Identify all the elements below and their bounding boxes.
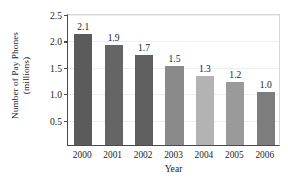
bar-chart-figure: Number of Pay Phones (millions) 2.52.01.… [0,0,288,182]
bar-group: 1.9 [98,15,128,145]
x-axis-title: Year [67,163,280,174]
bar-value-label: 1.3 [199,63,211,74]
x-axis-tick-label: 2004 [195,150,214,160]
bar-group: 1.5 [159,15,189,145]
x-axis-tick-label: 2001 [103,150,122,160]
bar-value-label: 1.5 [168,53,180,64]
bar-value-label: 2.1 [77,21,89,32]
x-axis-tick-label: 2006 [255,150,274,160]
x-axis-tick-label: 2002 [134,150,153,160]
bar-value-label: 1.9 [108,32,120,43]
bar-value-label: 1.0 [260,79,272,90]
y-axis-title: Number of Pay Phones (millions) [0,0,40,150]
bar-group: 2.1 [68,15,98,145]
bar[interactable] [165,66,183,145]
y-axis-title-line2: (millions) [20,32,31,119]
y-axis-tick-label: 0.5 [50,115,62,126]
x-axis-tick-label: 2000 [73,150,92,160]
bar-value-label: 1.2 [229,69,241,80]
bar[interactable] [257,92,275,145]
bar-group: 1.3 [190,15,220,145]
x-axis-tick-label: 2005 [225,150,244,160]
bar[interactable] [105,45,123,145]
bar-series: 2.11.91.71.51.31.21.0 [68,15,279,145]
y-axis-tick-label: 2.5 [50,10,62,21]
y-axis-tick-label: 2.0 [50,36,62,47]
x-axis-tick-label: 2003 [164,150,183,160]
y-axis-title-line1: Number of Pay Phones [10,32,20,119]
plot-area: 2.52.01.51.00.5 2.11.91.71.51.31.21.0 [67,14,280,146]
bar-group: 1.2 [220,15,250,145]
bar-group: 1.0 [251,15,281,145]
y-axis-tick-label: 1.5 [50,62,62,73]
bar[interactable] [135,55,153,145]
y-axis-tick-label: 1.0 [50,89,62,100]
bar-value-label: 1.7 [138,42,150,53]
bar-group: 1.7 [129,15,159,145]
bar[interactable] [196,76,214,145]
bar[interactable] [74,34,92,145]
bar[interactable] [226,82,244,145]
